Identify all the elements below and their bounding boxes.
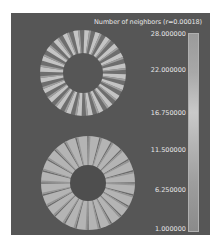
upper-ring-mesh — [40, 30, 126, 116]
scalar-bar-title: Number of neighbors (r=0.00018) — [94, 18, 202, 26]
scalar-bar-tick-label: 11.500000 — [151, 146, 186, 154]
scalar-bar-gradient — [188, 33, 199, 232]
render-viewport[interactable]: Number of neighbors (r=0.00018) 28.00000… — [11, 13, 210, 235]
scalar-bar-tick-label: 1.000000 — [155, 225, 186, 233]
lower-ring-mesh — [41, 136, 135, 230]
scalar-bar-tick-label: 16.750000 — [151, 109, 186, 117]
scalar-bar-tick-label: 6.250000 — [155, 186, 186, 194]
scalar-bar-tick-label: 22.000000 — [151, 66, 186, 74]
scalar-bar-tick-label: 28.000000 — [151, 30, 186, 38]
